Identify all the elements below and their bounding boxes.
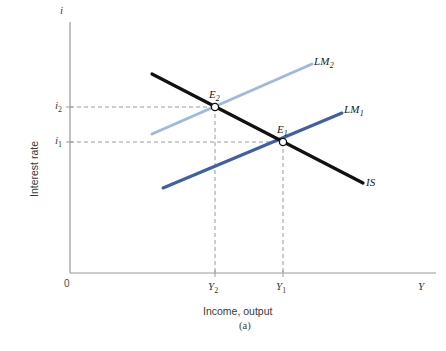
- x-axis-title: Income, output: [203, 305, 272, 317]
- y-tick-label-i2: i2: [55, 99, 62, 114]
- equilibrium-label-e2-sub: 2: [216, 94, 220, 103]
- equilibrium-label-e2-base: E: [209, 88, 216, 100]
- y-tick-label-i1-sub: 1: [58, 140, 62, 149]
- equilibrium-label-e1: E1: [277, 123, 288, 138]
- equilibrium-point-e1: [279, 138, 286, 145]
- panel-label: (a): [239, 320, 251, 331]
- lm1-curve-label-base: LM: [344, 103, 360, 115]
- is-lm-chart-svg: [0, 0, 446, 351]
- equilibrium-label-e1-base: E: [277, 123, 284, 135]
- x-tick-label-y2-sub: 2: [214, 286, 218, 295]
- lm2-curve-label: LM2: [314, 55, 334, 70]
- equilibrium-label-e2: E2: [209, 88, 220, 103]
- x-axis-variable-label: Y: [418, 280, 424, 292]
- lm1-curve-label-sub: 1: [360, 109, 364, 118]
- y-tick-label-i1: i1: [55, 134, 62, 149]
- lm2-curve: [152, 64, 312, 134]
- lm2-curve-label-sub: 2: [330, 61, 334, 70]
- lm2-curve-label-base: LM: [314, 55, 330, 67]
- origin-label: 0: [64, 278, 70, 289]
- y-axis-title: Interest rate: [28, 141, 40, 197]
- equilibrium-label-e1-sub: 1: [284, 129, 288, 138]
- is-lm-figure: i i2 i1 0 Y2 Y1 Y LM2 LM1 IS E2 E1 Inter…: [0, 0, 446, 351]
- x-tick-label-y1-sub: 1: [282, 286, 286, 295]
- is-curve-label: IS: [366, 176, 376, 188]
- is-curve: [152, 74, 363, 183]
- x-tick-label-y2: Y2: [208, 280, 218, 295]
- y-axis-variable-label: i: [60, 4, 63, 16]
- x-tick-label-y1: Y1: [276, 280, 286, 295]
- y-tick-label-i2-sub: 2: [58, 105, 62, 114]
- lm1-curve-label: LM1: [344, 103, 364, 118]
- equilibrium-point-e2: [211, 103, 218, 110]
